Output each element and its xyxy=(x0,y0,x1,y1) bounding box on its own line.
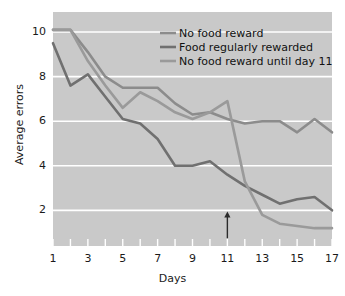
y-tick-label: 10 xyxy=(14,25,46,38)
day-11-arrow-annotation xyxy=(224,211,230,238)
y-axis-title: Average errors xyxy=(13,75,26,175)
x-tick-label: 13 xyxy=(247,252,277,265)
legend-item-label-1: Food regularly rewarded xyxy=(179,41,313,54)
x-tick-label: 11 xyxy=(212,252,242,265)
legend-item-label-2: No food reward until day 11 xyxy=(179,55,332,68)
y-tick-label: 2 xyxy=(14,203,46,216)
x-tick-label: 1 xyxy=(38,252,68,265)
x-tick-label: 9 xyxy=(178,252,208,265)
chart-container: 246810 1357911131517 Average errors Days… xyxy=(0,0,345,296)
x-tick-label: 5 xyxy=(108,252,138,265)
x-tick-label: 7 xyxy=(143,252,173,265)
x-tick-marks xyxy=(53,239,332,246)
x-axis-title: Days xyxy=(0,272,345,285)
x-tick-label: 15 xyxy=(282,252,312,265)
legend-item-label-0: No food reward xyxy=(179,27,263,40)
legend-swatches xyxy=(160,33,176,61)
x-tick-label: 17 xyxy=(317,252,345,265)
x-tick-label: 3 xyxy=(73,252,103,265)
